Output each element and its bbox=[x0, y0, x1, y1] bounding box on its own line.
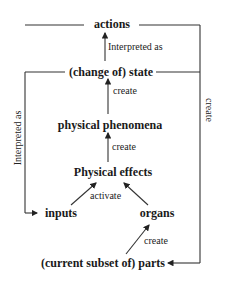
edge-label-interpreted-as: Interpreted as bbox=[108, 41, 163, 52]
edge-label-activate: activate bbox=[90, 190, 122, 201]
node-physical-effects: Physical effects bbox=[74, 165, 153, 179]
node-physical-phenomena: physical phenomena bbox=[58, 118, 162, 132]
node-organs: organs bbox=[140, 206, 175, 220]
diagram-canvas: actions (change of) state physical pheno… bbox=[0, 0, 225, 281]
node-parts: (current subset of) parts bbox=[41, 256, 165, 270]
node-inputs: inputs bbox=[45, 206, 77, 220]
edge-label-right-create: create bbox=[204, 98, 215, 122]
edge-label-create-2: create bbox=[112, 141, 136, 152]
node-state: (change of) state bbox=[69, 65, 154, 79]
edge-label-left-interpreted-as: Interpreted as bbox=[12, 111, 23, 166]
edge-label-create-1: create bbox=[113, 85, 137, 96]
edge-label-create-3: create bbox=[144, 235, 168, 246]
arrow-organs-to-effects bbox=[124, 183, 148, 205]
node-actions: actions bbox=[94, 17, 130, 31]
